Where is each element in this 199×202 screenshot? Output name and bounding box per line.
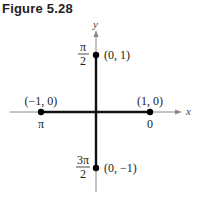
coord-left: (−1, 0) <box>25 94 58 108</box>
y-axis-arrow-icon <box>94 30 99 37</box>
point-right <box>147 109 153 115</box>
x-axis-label: x <box>185 105 191 117</box>
angle-bottom-num: 3π <box>77 153 89 167</box>
angle-top-den: 2 <box>80 54 86 68</box>
angle-bottom-den: 2 <box>80 167 86 181</box>
y-axis-label: y <box>92 18 98 30</box>
point-bottom <box>93 165 99 171</box>
x-axis-arrow-icon <box>175 110 182 115</box>
angle-right: 0 <box>147 117 153 131</box>
coord-bottom: (0, −1) <box>104 161 137 175</box>
coord-top: (0, 1) <box>104 48 130 62</box>
angle-top-num: π <box>80 40 86 54</box>
angle-left: π <box>38 117 44 131</box>
point-top <box>93 52 99 58</box>
coord-right: (1, 0) <box>137 94 163 108</box>
unit-circle-diagram: y x (0, 1) π 2 (−1, 0) π (1, 0) 0 (0, −1… <box>0 0 199 202</box>
point-left <box>38 109 44 115</box>
